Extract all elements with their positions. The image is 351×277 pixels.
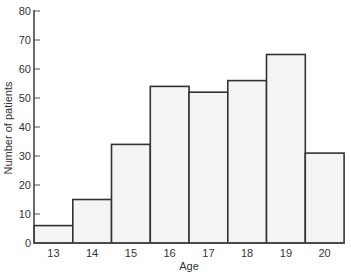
bar-age-20 — [305, 153, 344, 243]
y-tick-label: 0 — [25, 237, 31, 249]
x-tick-label: 18 — [241, 247, 253, 259]
y-tick-label: 30 — [19, 150, 31, 162]
bar-age-15 — [112, 144, 151, 243]
x-tick-label: 14 — [86, 247, 98, 259]
bar-age-14 — [73, 200, 112, 244]
x-tick-label: 15 — [125, 247, 137, 259]
y-tick-label: 20 — [19, 179, 31, 191]
y-tick-label: 60 — [19, 63, 31, 75]
y-tick-label: 40 — [19, 121, 31, 133]
x-tick-label: 20 — [318, 247, 330, 259]
y-tick-label: 80 — [19, 5, 31, 17]
x-tick-label: 19 — [280, 247, 292, 259]
bar-age-19 — [267, 55, 306, 244]
y-tick-label: 70 — [19, 34, 31, 46]
y-tick-label: 50 — [19, 92, 31, 104]
bar-age-13 — [34, 226, 73, 243]
x-tick-label: 16 — [163, 247, 175, 259]
x-tick-label: 17 — [202, 247, 214, 259]
x-axis-tick-labels: 1314151617181920 — [47, 247, 330, 259]
histogram-chart: 01020304050607080 1314151617181920 Age N… — [0, 0, 351, 277]
bars-group — [34, 55, 344, 244]
bar-age-16 — [150, 86, 189, 243]
x-axis-title: Age — [179, 260, 199, 272]
bar-age-17 — [189, 92, 228, 243]
y-axis-title: Number of patients — [2, 81, 14, 174]
y-tick-label: 10 — [19, 208, 31, 220]
y-axis-ticks: 01020304050607080 — [19, 5, 40, 249]
x-tick-label: 13 — [47, 247, 59, 259]
bar-age-18 — [228, 81, 267, 243]
